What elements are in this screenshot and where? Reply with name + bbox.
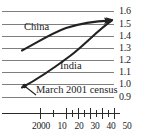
x-axis: 2000 10 20 30 40 50	[0, 104, 149, 131]
xtick-minor-2015	[72, 110, 73, 117]
series-label-india: India	[60, 60, 82, 71]
xtick-minor-2005	[53, 110, 54, 117]
xtick-label-2030: 30	[90, 121, 99, 131]
plot-area: 1.6 1.5 1.4 1.3 1.2 1.1 1.0 0.9 China In…	[0, 0, 149, 104]
xtick-label-2000: 2000	[32, 121, 50, 131]
xtick-2030	[90, 108, 91, 119]
xtick-2010	[66, 108, 67, 119]
xtick-2000	[40, 108, 41, 119]
xtick-label-2050: 50	[122, 121, 131, 131]
xtick-minor-2025	[84, 110, 85, 117]
xtick-2020	[78, 108, 79, 119]
xtick-label-2040: 40	[106, 121, 115, 131]
xtick-label-2020: 20	[74, 121, 83, 131]
census-annotation-label: March 2001 census	[36, 84, 118, 95]
xtick-2050	[114, 108, 115, 119]
annotation-leader-line	[25, 86, 37, 95]
xtick-label-2010: 10	[57, 121, 66, 131]
population-projection-chart: 1.6 1.5 1.4 1.3 1.2 1.1 1.0 0.9 China In…	[0, 0, 149, 131]
xtick-2040	[102, 108, 103, 119]
xtick-minor-2045	[108, 110, 109, 117]
xtick-minor-2035	[96, 110, 97, 117]
series-label-china: China	[24, 21, 49, 32]
